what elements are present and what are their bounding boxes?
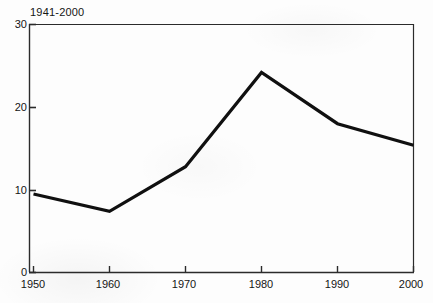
chart-figure: 1941-2000 30 20 10 0 1950 1960 1970 1980… [0,0,433,303]
x-tick-marks [34,266,414,272]
axis-frame [29,24,414,273]
plot-area [0,0,433,303]
data-series-line [34,72,414,211]
